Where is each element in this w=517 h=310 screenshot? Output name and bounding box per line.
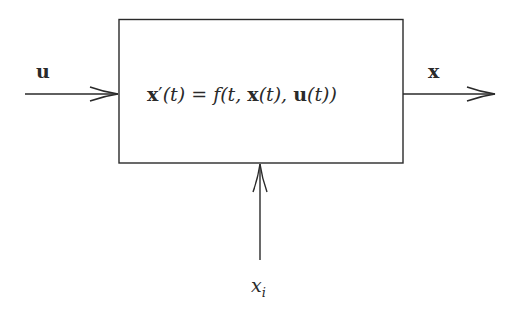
block-diagram: u x xi x′(t) = f(t, x(t), u(t)) bbox=[0, 0, 517, 310]
initial-condition-label: xi bbox=[251, 274, 266, 300]
output-label: x bbox=[428, 60, 440, 82]
output-arrow bbox=[403, 87, 495, 101]
input-arrow bbox=[25, 87, 118, 101]
input-label: u bbox=[36, 60, 50, 82]
state-equation: x′(t) = f(t, x(t), u(t)) bbox=[147, 83, 337, 105]
initial-condition-arrow bbox=[253, 164, 267, 260]
